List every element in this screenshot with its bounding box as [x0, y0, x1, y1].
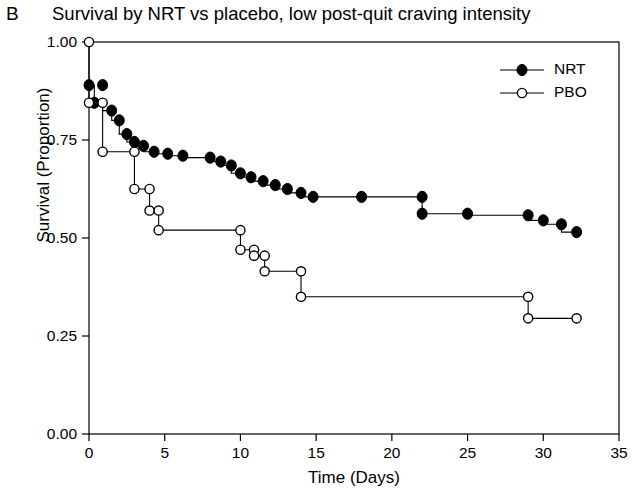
- y-tick-label-0: 0.00: [21, 426, 77, 442]
- data-point-nrt-20: [308, 191, 318, 202]
- data-point-nrt-1: [98, 80, 108, 91]
- y-tick-label-1: 0.25: [21, 328, 77, 344]
- data-point-nrt-14: [235, 168, 245, 179]
- data-point-pbo-19: [524, 314, 533, 323]
- legend-label-pbo: PBO: [554, 84, 587, 100]
- x-tick-label-4: 20: [372, 445, 412, 461]
- x-tick-label-3: 15: [296, 445, 336, 461]
- data-point-nrt-19: [296, 187, 306, 198]
- data-point-pbo-20: [572, 314, 581, 323]
- data-point-nrt-10: [178, 150, 188, 161]
- data-point-pbo-9: [154, 226, 163, 235]
- data-point-pbo-11: [236, 245, 245, 254]
- data-point-pbo-1: [84, 98, 93, 107]
- data-point-pbo-6: [145, 184, 154, 193]
- data-point-nrt-3: [107, 105, 117, 116]
- data-point-nrt-28: [572, 227, 582, 238]
- data-point-nrt-23: [417, 208, 427, 219]
- y-tick-label-2: 0.50: [21, 230, 77, 246]
- data-point-pbo-4: [130, 147, 139, 156]
- data-point-nrt-18: [282, 183, 292, 194]
- data-point-nrt-26: [538, 215, 548, 226]
- data-point-nrt-11: [205, 152, 215, 163]
- data-point-pbo-5: [130, 184, 139, 193]
- data-point-nrt-27: [556, 219, 566, 230]
- x-tick-label-0: 0: [69, 445, 109, 461]
- data-point-nrt-8: [149, 146, 159, 157]
- data-point-pbo-3: [98, 147, 107, 156]
- data-point-nrt-24: [463, 208, 473, 219]
- data-point-nrt-7: [139, 140, 149, 151]
- data-point-nrt-17: [270, 179, 280, 190]
- data-point-nrt-22: [417, 191, 427, 202]
- data-point-pbo-15: [260, 267, 269, 276]
- y-tick-label-4: 1.00: [21, 34, 77, 50]
- data-point-nrt-21: [357, 191, 367, 202]
- series-pbo: [84, 37, 581, 323]
- data-point-nrt-9: [163, 148, 173, 159]
- y-tick-label-3: 0.75: [21, 132, 77, 148]
- data-point-nrt-4: [114, 115, 124, 126]
- data-point-nrt-13: [226, 160, 236, 171]
- data-point-nrt-15: [246, 172, 256, 183]
- x-tick-label-6: 30: [523, 445, 563, 461]
- data-point-nrt-16: [258, 176, 268, 187]
- data-point-pbo-8: [154, 206, 163, 215]
- x-tick-label-5: 25: [448, 445, 488, 461]
- data-point-nrt-6: [129, 136, 139, 147]
- data-point-pbo-7: [145, 206, 154, 215]
- data-point-pbo-13: [249, 251, 258, 260]
- data-point-pbo-16: [296, 267, 305, 276]
- legend-label-nrt: NRT: [554, 61, 586, 77]
- data-point-pbo-2: [98, 98, 107, 107]
- data-point-pbo-18: [524, 292, 533, 301]
- data-point-pbo-0: [84, 37, 93, 46]
- x-tick-label-7: 35: [599, 445, 632, 461]
- series-line-pbo: [89, 42, 577, 318]
- data-point-pbo-14: [260, 251, 269, 260]
- data-point-pbo-17: [296, 292, 305, 301]
- x-tick-label-2: 10: [220, 445, 260, 461]
- x-tick-label-1: 5: [145, 445, 185, 461]
- data-point-nrt-12: [216, 156, 226, 167]
- plot-frame: [89, 42, 619, 434]
- data-point-nrt-25: [523, 210, 533, 221]
- data-point-pbo-10: [236, 226, 245, 235]
